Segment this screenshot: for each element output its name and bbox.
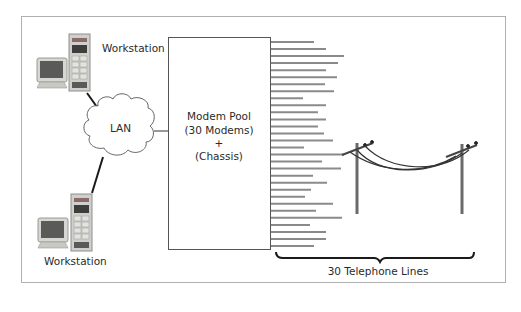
tower-computer-icon	[71, 194, 92, 251]
modem-pool-line-4: (Chassis)	[195, 150, 243, 162]
link-workstation-top-lan	[87, 93, 97, 107]
computer-monitor-icon	[38, 218, 68, 248]
workstation-top: Workstation	[37, 34, 165, 91]
lan-label: LAN	[110, 122, 131, 134]
telephone-pole-icon	[342, 141, 478, 215]
modem-pool-line-2: (30 Modems)	[184, 124, 253, 136]
modem-pool: Modem Pool (30 Modems) + (Chassis)	[169, 38, 271, 250]
computer-monitor-icon	[37, 58, 67, 88]
workstation-bottom: Workstation	[38, 194, 107, 267]
tower-computer-icon	[69, 34, 90, 91]
telephone-line-stubs	[271, 42, 344, 246]
brace-icon	[276, 252, 474, 262]
telephone-lines-label: 30 Telephone Lines	[328, 265, 429, 277]
workstation-top-label: Workstation	[102, 42, 165, 54]
modem-pool-line-1: Modem Pool	[187, 110, 251, 122]
network-diagram: Workstation LAN Workstation	[0, 0, 521, 312]
link-lan-workstation-bottom	[92, 157, 103, 193]
workstation-bottom-label: Workstation	[44, 255, 107, 267]
modem-pool-line-3: +	[215, 137, 224, 149]
